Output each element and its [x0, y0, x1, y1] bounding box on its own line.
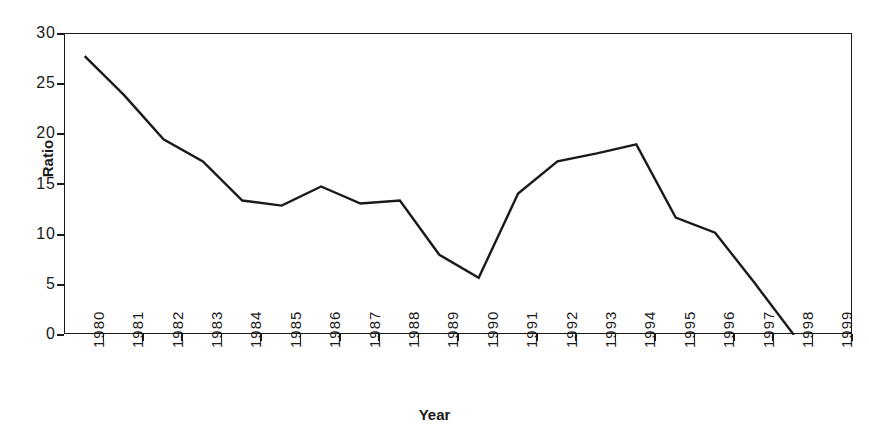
y-tick-label-0: 0 [12, 326, 56, 342]
x-tick-label-1990: 1990 [485, 284, 500, 348]
x-tick-label-1992: 1992 [564, 284, 579, 348]
x-tick-label-1980: 1980 [91, 284, 106, 348]
x-axis-title: Year [0, 406, 869, 423]
x-tick-label-1997: 1997 [761, 284, 776, 348]
x-tick-label-1995: 1995 [682, 284, 697, 348]
y-tick-mark-0 [57, 334, 64, 336]
y-tick-mark-15 [57, 183, 64, 185]
y-tick-mark-20 [57, 133, 64, 135]
x-tick-label-1998: 1998 [800, 284, 815, 348]
y-tick-mark-30 [57, 33, 64, 35]
y-tick-label-20: 20 [12, 125, 56, 141]
x-tick-label-1996: 1996 [721, 284, 736, 348]
x-tick-label-1984: 1984 [248, 284, 263, 348]
line-chart: Ratio 30 25 20 15 10 5 0 198019811982198… [0, 0, 869, 440]
x-tick-label-1983: 1983 [209, 284, 224, 348]
x-tick-label-1999: 1999 [839, 284, 854, 348]
x-tick-label-1981: 1981 [130, 284, 145, 348]
x-tick-label-1989: 1989 [445, 284, 460, 348]
y-tick-label-30: 30 [12, 25, 56, 41]
y-tick-mark-10 [57, 234, 64, 236]
y-tick-label-10: 10 [12, 226, 56, 242]
y-axis-tick-labels: 30 25 20 15 10 5 0 [8, 0, 56, 440]
y-tick-mark-25 [57, 83, 64, 85]
x-tick-label-1986: 1986 [327, 284, 342, 348]
y-tick-label-15: 15 [12, 176, 56, 192]
x-tick-label-1994: 1994 [642, 284, 657, 348]
x-tick-label-1991: 1991 [524, 284, 539, 348]
x-tick-label-1982: 1982 [170, 284, 185, 348]
x-tick-label-1988: 1988 [406, 284, 421, 348]
x-tick-label-1987: 1987 [367, 284, 382, 348]
y-tick-label-25: 25 [12, 75, 56, 91]
x-tick-label-1993: 1993 [603, 284, 618, 348]
y-tick-label-5: 5 [12, 276, 56, 292]
x-tick-label-1985: 1985 [288, 284, 303, 348]
y-tick-mark-5 [57, 284, 64, 286]
